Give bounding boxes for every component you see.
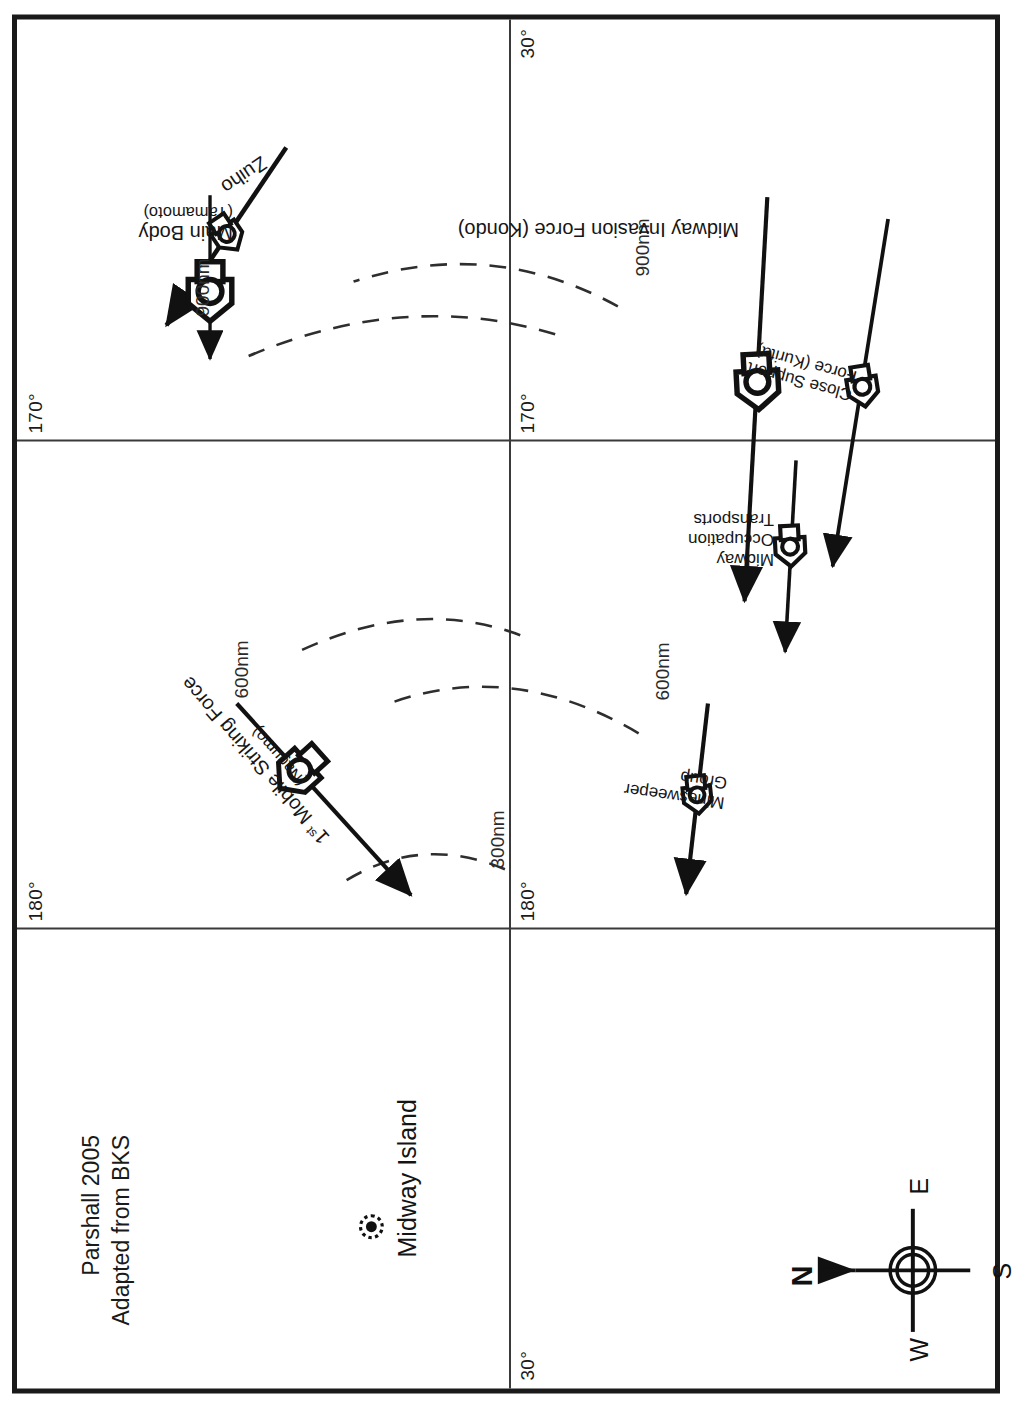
midway-island-icon [360, 1215, 382, 1237]
compass-label-east: E [905, 1177, 934, 1194]
label-mot-line-3: Transports [688, 508, 774, 528]
compass-label-north: N [786, 1265, 819, 1286]
compass-label-south: S [988, 1262, 1014, 1279]
compass-label-west: W [905, 1337, 934, 1361]
label-range-arc-600-upper: 600nm [231, 640, 252, 698]
label-main-body-name: Main Body [139, 221, 234, 243]
credit-line-1: Parshall 2005 [77, 1135, 107, 1326]
credit-block: Parshall 2005 Adapted from BKS [77, 1135, 137, 1326]
label-midway-invasion-force: Midway Invasion Force (Kondo) [458, 218, 739, 240]
range-arc-600-upper [302, 619, 530, 650]
range-arc-900-lower [354, 264, 618, 306]
label-mot-line-1: Midway [688, 548, 774, 568]
map-frame: 180° 170° 180° 170° 30° 30° [12, 14, 1000, 1393]
unit-symbol-midway-occupation-transports [774, 525, 806, 567]
range-arc-900-upper [249, 316, 568, 356]
label-range-arc-600-lower: 600nm [652, 642, 673, 700]
label-midway-island: Midway Island [393, 1099, 422, 1257]
range-arc-600-lower [389, 686, 638, 733]
credit-line-2: Adapted from BKS [107, 1135, 137, 1326]
label-range-arc-900-upper: 900nm [192, 258, 213, 316]
label-mot-line-2: Occupation [688, 528, 774, 548]
compass-rose-icon [818, 1208, 970, 1331]
label-range-arc-300: 300nm [487, 810, 508, 868]
map-figure: 180° 170° 180° 170° 30° 30° [0, 0, 1014, 1407]
label-main-body: Main Body (Yamamoto) [139, 202, 234, 243]
label-main-body-commander: (Yamamoto) [139, 202, 234, 220]
label-mif-name: Midway Invasion Force (Kondo) [458, 218, 739, 240]
label-midway-occupation-transports: Midway Occupation Transports [688, 508, 774, 568]
